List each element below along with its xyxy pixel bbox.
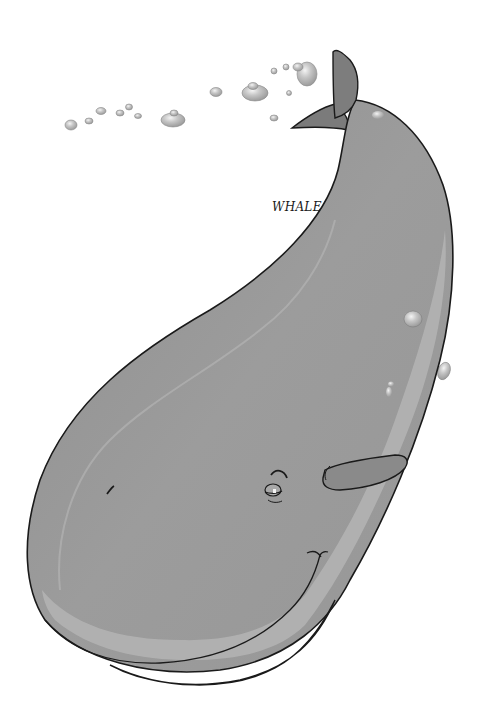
whale-illustration: WHALE: [0, 0, 485, 707]
whale-body: [27, 100, 453, 672]
whale-label: WHALE: [272, 200, 322, 214]
